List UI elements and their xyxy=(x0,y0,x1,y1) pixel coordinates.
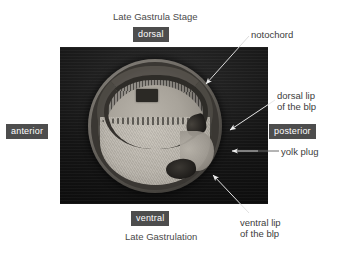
figure-title-top: Late Gastrula Stage xyxy=(113,11,198,22)
axis-tag-ventral: ventral xyxy=(131,211,169,226)
axis-tag-dorsal: dorsal xyxy=(133,27,169,42)
annotation-ventral-lip: ventral lip of the blp xyxy=(240,217,281,239)
annotation-ventral-lip-line2: of the blp xyxy=(240,228,281,239)
annotation-notochord: notochord xyxy=(251,29,293,40)
annotation-yolk-plug-line1: yolk plug xyxy=(281,146,319,157)
axis-tag-posterior: posterior xyxy=(269,124,316,139)
annotation-dorsal-lip-line1: dorsal lip xyxy=(277,90,315,101)
annotation-ventral-lip-line1: ventral lip xyxy=(240,217,281,228)
embryo-section xyxy=(88,59,222,193)
embryo-micrograph xyxy=(60,47,268,204)
figure-title-bottom: Late Gastrulation xyxy=(125,231,197,242)
annotation-notochord-line1: notochord xyxy=(251,29,293,40)
annotation-dorsal-lip-line2: of the blp xyxy=(277,101,316,112)
figure-root: Late Gastrula Stage xyxy=(0,0,337,254)
archenteron-cavity xyxy=(136,89,158,102)
axis-tag-anterior: anterior xyxy=(6,124,48,139)
annotation-yolk-plug: yolk plug xyxy=(281,146,319,157)
annotation-dorsal-lip: dorsal lip of the blp xyxy=(277,90,316,112)
